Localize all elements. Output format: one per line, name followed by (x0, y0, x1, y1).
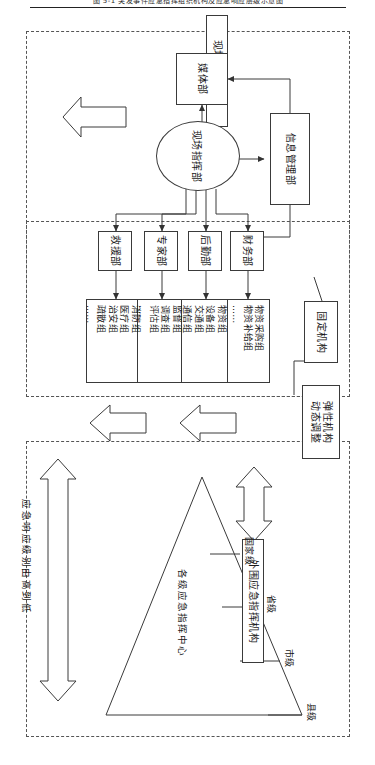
box-dept-logistics: 后勤部 (188, 231, 222, 271)
group-item: 评估组 (147, 305, 159, 377)
group-item: …… (83, 305, 95, 377)
box-flexible-organization: 弹性机构 动态调整 (302, 385, 340, 459)
group-item: 物资补给组 (241, 305, 253, 377)
level-label-county: 县级 (305, 703, 318, 722)
figure-caption: 图 5-1 突发事件应急指挥组织机构及应急响应层级示意图 (38, 0, 338, 6)
group-item: 交通组 (192, 305, 204, 377)
box-dept-experts: 专家部 (144, 231, 178, 271)
group-item: 物资组 (215, 305, 227, 377)
box-media-dept: 媒体部 (176, 53, 228, 105)
level-label-city: 市级 (283, 649, 296, 668)
box-fixed-organization: 固定机构 (304, 301, 338, 363)
box-dept-rescue: 救援部 (98, 231, 132, 271)
group-box-expert-units: 监督组 调查组 评估组 …… (136, 299, 182, 383)
group-box-materials-procurement: 物资采购组 物资补给组 …… (224, 299, 270, 383)
level-label-provincial: 省级 (265, 595, 278, 614)
diagram-canvas: 现场处置机构 外围应急指挥机构 媒体部 信息管理部 现场指挥部 财务部 后勤部 … (8, 9, 368, 757)
ellipse-onsite-command: 现场指挥部 (156, 121, 240, 191)
group-item: 通信组 (181, 305, 193, 377)
response-level-label: 应急响应级别由高到低 (20, 499, 34, 614)
group-item: 治安组 (106, 305, 118, 377)
group-item: 调查组 (159, 305, 171, 377)
group-box-logistics-units: 物资组 设备组 交通组 通信组 (180, 299, 228, 383)
group-item: 监督组 (170, 305, 182, 377)
group-item: …… (229, 305, 241, 377)
group-item: 物资采购组 (252, 305, 264, 377)
group-box-rescue-units: 消防组 医疗组 治安组 疏散组 …… (86, 299, 138, 383)
level-label-national: 国家级 (243, 537, 256, 565)
box-dept-finance: 财务部 (230, 231, 264, 271)
group-item: 疏散组 (94, 305, 106, 377)
group-item: 消防组 (129, 305, 141, 377)
group-item: 医疗组 (117, 305, 129, 377)
group-item: 设备组 (204, 305, 216, 377)
box-info-management-dept: 信息管理部 (270, 113, 310, 205)
hierarchy-center-label: 各级应急指挥中心 (176, 569, 190, 657)
caption-divider (30, 7, 346, 8)
